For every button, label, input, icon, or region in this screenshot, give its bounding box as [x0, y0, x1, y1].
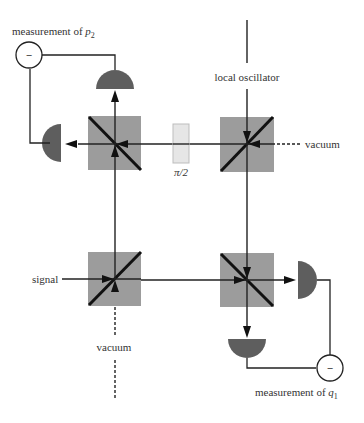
photodetector-top [96, 70, 134, 89]
beam-splitter-bottom-left [88, 252, 141, 306]
arrow-up-to-top-detector [111, 90, 119, 102]
wire-top-detector-to-subtractor-p2 [42, 55, 115, 70]
minus-sign-p2: − [26, 49, 32, 61]
minus-sign-q1: − [327, 362, 333, 374]
arrow-right-to-right-detector [284, 276, 296, 284]
label-measurement-p2: measurement of p2 [12, 25, 95, 40]
photodetector-bottom [228, 339, 266, 358]
wire-bottom-detector-to-subtractor-q1 [247, 358, 316, 368]
label-phase-plate: π/2 [174, 166, 189, 178]
label-measurement-q1: measurement of q1 [255, 386, 338, 401]
photodetector-right [298, 261, 317, 299]
arrow-left-to-left-detector [65, 140, 77, 148]
beam-splitter-top-left [88, 116, 141, 170]
arrow-down-to-bottom-detector [243, 326, 251, 338]
wire-right-detector-to-subtractor-q1 [317, 280, 330, 355]
subtractor-p2: − [16, 42, 42, 68]
label-vacuum-right: vacuum [305, 138, 340, 150]
subtractor-q1: − [317, 355, 343, 381]
label-vacuum-bottom: vacuum [97, 341, 132, 353]
homodyne-diagram: − − measurement of p2 local oscillator v… [0, 0, 364, 423]
label-signal: signal [32, 273, 58, 285]
label-local-oscillator: local oscillator [214, 71, 279, 83]
beam-splitter-top-right [220, 117, 274, 172]
beam-splitter-bottom-right [220, 253, 274, 307]
